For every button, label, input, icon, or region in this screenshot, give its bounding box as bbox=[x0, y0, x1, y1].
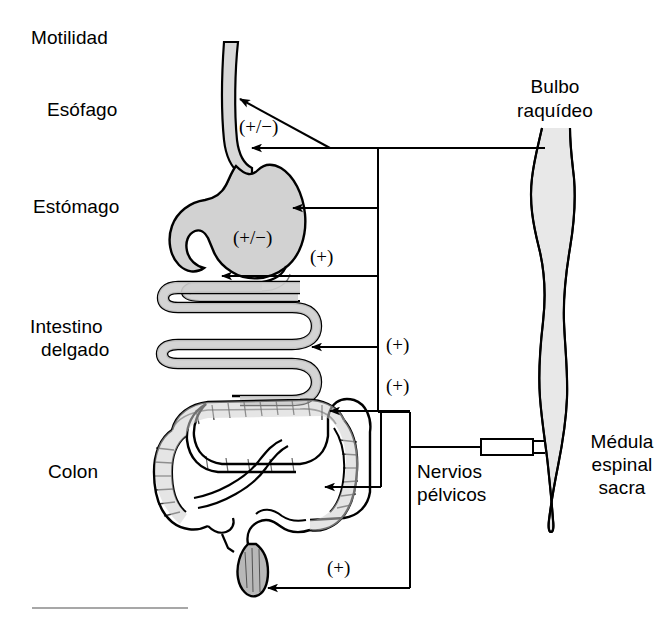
sign-proximal-colon: (+) bbox=[386, 375, 409, 396]
sign-small-intestine: (+) bbox=[386, 334, 409, 355]
esophagus-tube bbox=[222, 42, 252, 178]
label-sacral-cord-line2: espinal bbox=[578, 453, 666, 476]
label-medulla-line1: Bulbo bbox=[505, 75, 605, 98]
label-small-intestine-line2: delgado bbox=[41, 338, 109, 361]
label-sacral-cord-line3: sacra bbox=[578, 476, 666, 499]
spinal-cord bbox=[531, 128, 575, 532]
sign-esophagus: (+/−) bbox=[239, 116, 278, 137]
pelvic-ganglion-box bbox=[481, 439, 533, 455]
label-medulla-line2: raquídeo bbox=[497, 99, 613, 122]
stomach-body bbox=[170, 165, 306, 279]
vagal-nerve-trunk bbox=[378, 148, 545, 412]
label-small-intestine-line1: Intestino bbox=[30, 315, 103, 338]
label-motility: Motilidad bbox=[31, 26, 108, 49]
rectum-segment bbox=[237, 544, 268, 596]
anatomical-figure: Motilidad Esófago Estómago Intestino del… bbox=[0, 0, 671, 621]
label-sacral-cord-line1: Médula bbox=[578, 430, 666, 453]
label-pelvic-nerves-line2: pélvicos bbox=[417, 483, 486, 506]
sign-rectum: (+) bbox=[327, 557, 350, 578]
label-pelvic-nerves-line1: Nervios bbox=[417, 460, 482, 483]
label-stomach: Estómago bbox=[33, 195, 119, 218]
label-colon: Colon bbox=[48, 460, 98, 483]
label-esophagus: Esófago bbox=[47, 98, 117, 121]
sign-stomach: (+/−) bbox=[233, 227, 272, 248]
sign-duodenum: (+) bbox=[310, 246, 333, 267]
